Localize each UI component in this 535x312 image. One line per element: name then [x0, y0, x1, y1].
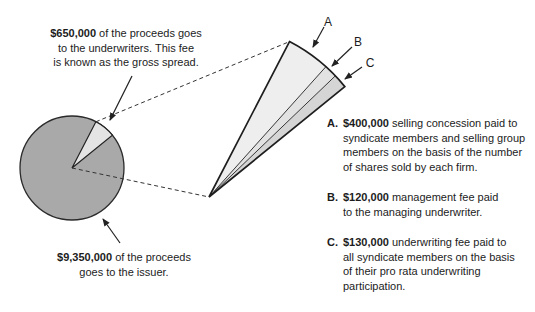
- legend-item-b: B. $120,000 management fee paid to the m…: [327, 190, 498, 219]
- legend-c-text: underwriting fee paid to: [389, 236, 506, 248]
- legend-a-amount: $400,000: [343, 117, 389, 129]
- legend-c-line-1: $130,000 underwriting fee paid to: [343, 235, 515, 250]
- gross-spread-text: of the proceeds goes: [96, 27, 202, 39]
- issuer-text: of the proceeds: [112, 251, 191, 263]
- legend-c-amount: $130,000: [343, 236, 389, 248]
- legend-letter-a: A.: [327, 116, 343, 174]
- gross-spread-pointer-arrow: [110, 76, 132, 120]
- issuer-line-2: goes to the issuer.: [57, 265, 191, 280]
- legend-item-c: C. $130,000 underwriting fee paid to all…: [327, 235, 515, 293]
- gross-spread-amount: $650,000: [50, 27, 96, 39]
- legend-item-a: A. $400,000 selling concession paid to s…: [327, 116, 525, 174]
- wedge-label-c: C: [366, 56, 375, 70]
- legend-body-c: $130,000 underwriting fee paid to all sy…: [343, 235, 515, 293]
- legend-c-line-2: all syndicate members on the basis: [343, 250, 515, 265]
- wedge-label-b: B: [354, 35, 362, 49]
- wedge-label-a: A: [324, 15, 332, 29]
- legend-letter-c: C.: [327, 235, 343, 293]
- legend-a-line-3: members on the basis of the number: [343, 145, 525, 160]
- legend-letter-b: B.: [327, 190, 343, 219]
- legend-b-amount: $120,000: [343, 191, 389, 203]
- legend-body-a: $400,000 selling concession paid to synd…: [343, 116, 525, 174]
- legend-b-line-1: $120,000 management fee paid: [343, 190, 498, 205]
- wedge-b-pointer-arrow: [332, 47, 352, 66]
- legend-c-line-3: of their pro rata underwriting: [343, 264, 515, 279]
- issuer-amount: $9,350,000: [57, 251, 112, 263]
- legend-a-text: selling concession paid to: [389, 117, 517, 129]
- wedge-a-pointer-arrow: [313, 27, 324, 47]
- gross-spread-annotation: $650,000 of the proceeds goes to the und…: [50, 26, 202, 70]
- issuer-line-1: $9,350,000 of the proceeds: [57, 250, 191, 265]
- issuer-pointer-arrow: [103, 219, 120, 243]
- legend-b-line-2: to the managing underwriter.: [343, 205, 498, 220]
- gross-spread-line-1: $650,000 of the proceeds goes: [50, 26, 202, 41]
- legend-b-text: management fee paid: [389, 191, 498, 203]
- legend-a-line-4: of shares sold by each firm.: [343, 160, 525, 175]
- gross-spread-line-2: to the underwriters. This fee: [50, 41, 202, 56]
- legend-a-line-1: $400,000 selling concession paid to: [343, 116, 525, 131]
- legend-c-line-4: participation.: [343, 279, 515, 294]
- legend-body-b: $120,000 management fee paid to the mana…: [343, 190, 498, 219]
- issuer-annotation: $9,350,000 of the proceeds goes to the i…: [57, 250, 191, 279]
- gross-spread-line-3: is known as the gross spread.: [50, 55, 202, 70]
- wedge-c-pointer-arrow: [345, 67, 362, 79]
- wedge-segment-a: [209, 42, 326, 197]
- legend-a-line-2: syndicate members and selling group: [343, 131, 525, 146]
